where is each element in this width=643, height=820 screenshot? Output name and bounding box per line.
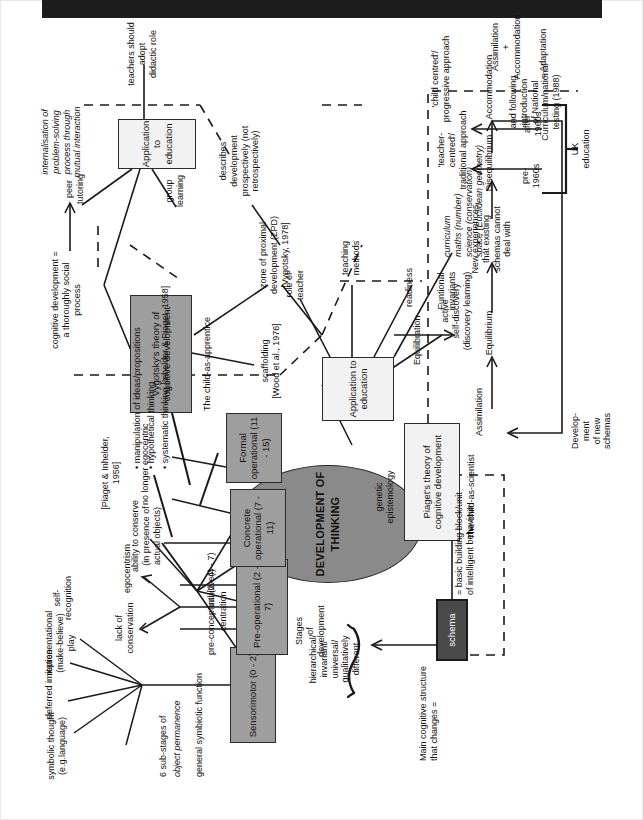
label-assimilation-edge: Assimilation: [474, 375, 485, 449]
label-self-recognition: self- recognition: [52, 567, 74, 629]
label-describes-development: describes development prospectively (not…: [218, 105, 261, 217]
theory-box-piaget[interactable]: Piaget's theory of cognitive development: [404, 423, 460, 541]
label-general-symbiotic-function: general symbiotic function: [194, 627, 205, 777]
label-lack-of-conservation: lack of conservation: [114, 597, 136, 659]
label-object-permanence: object permanence: [172, 665, 183, 777]
label-role-of-teacher: role of teacher: [284, 257, 306, 313]
schema-box[interactable]: schema: [436, 599, 468, 661]
label-symbolic-thought: symbolic thought (e.g.language): [46, 711, 68, 781]
bullet-systematic-thinking: • systematic thinking [Inhelder & Piaget…: [160, 229, 171, 469]
label-scaffolding: scaffolding [Wood et al., 1976]: [260, 313, 282, 409]
label-child-as-apprentice: The child-as-apprentice: [202, 271, 213, 411]
label-main-cognitive-structure: Main cognitive structure that changes =: [418, 631, 440, 761]
application-box-piaget[interactable]: Application to education: [322, 357, 394, 421]
label-uk-education: UK education: [570, 123, 592, 175]
stage-box-formal-operational[interactable]: Formal operational (11 - 15): [226, 413, 282, 483]
label-pre-1960s: pre- 1960s: [520, 155, 542, 197]
label-child-centred: 'child centred'/ progressive approach: [430, 21, 452, 137]
label-stage-qualities: hierarchical/ invariant/ universal/ qual…: [308, 613, 362, 705]
label-after-1960s: after 1960s: [522, 103, 544, 145]
label-group-learning: group learning: [164, 163, 186, 219]
label-new-experiences: New experiences that existing schemas ca…: [470, 195, 513, 283]
application-box-vygotsky[interactable]: Application to education: [118, 119, 196, 169]
label-cognitive-development-social: cognitive development = a thoroughly soc…: [50, 241, 82, 359]
concept-map-canvas: DEVELOPMENT OF THINKING Sensorimotor (0 …: [22, 15, 622, 805]
stage-box-sensorimotor[interactable]: Sensorimotor (0 - 2): [230, 647, 276, 743]
label-teaching-methods: teaching methods: [340, 227, 362, 289]
label-disequilibrium: Disequilibrium: [484, 125, 495, 201]
label-development-new-schemas: Develop- ment of new schemas: [570, 399, 613, 463]
citation-piaget-inhelder-1956: [Piaget & Inhelder, 1956]: [100, 429, 122, 517]
label-teachers-adopt-didactic: teachers should adopt didactic role: [126, 15, 158, 93]
label-intuitive: intuitive(4 - 7): [206, 529, 217, 607]
label-sub-stages: 6 sub-stages of: [158, 669, 169, 777]
bullet-manipulation-ideas: • manipulation of ideas/propositions: [132, 269, 143, 469]
label-genetic-epistemology: genetic epistemology: [374, 457, 396, 537]
label-peer-tutoring: peer tutoring: [64, 161, 86, 217]
label-equilibrium: Equilibrium: [484, 301, 495, 365]
label-equilibration: Equilibration: [412, 285, 423, 365]
bullet-hypothetical-thinking: • hypothetical thinking: [146, 269, 157, 469]
label-functional-invariants: Funtional invariants: [436, 253, 458, 329]
stage-box-concrete-operational[interactable]: Concrete operational (7 - 11): [230, 489, 286, 567]
stage-box-preoperational[interactable]: Pre-operational (2 - 7): [236, 559, 288, 655]
label-centration: centration: [218, 561, 229, 631]
